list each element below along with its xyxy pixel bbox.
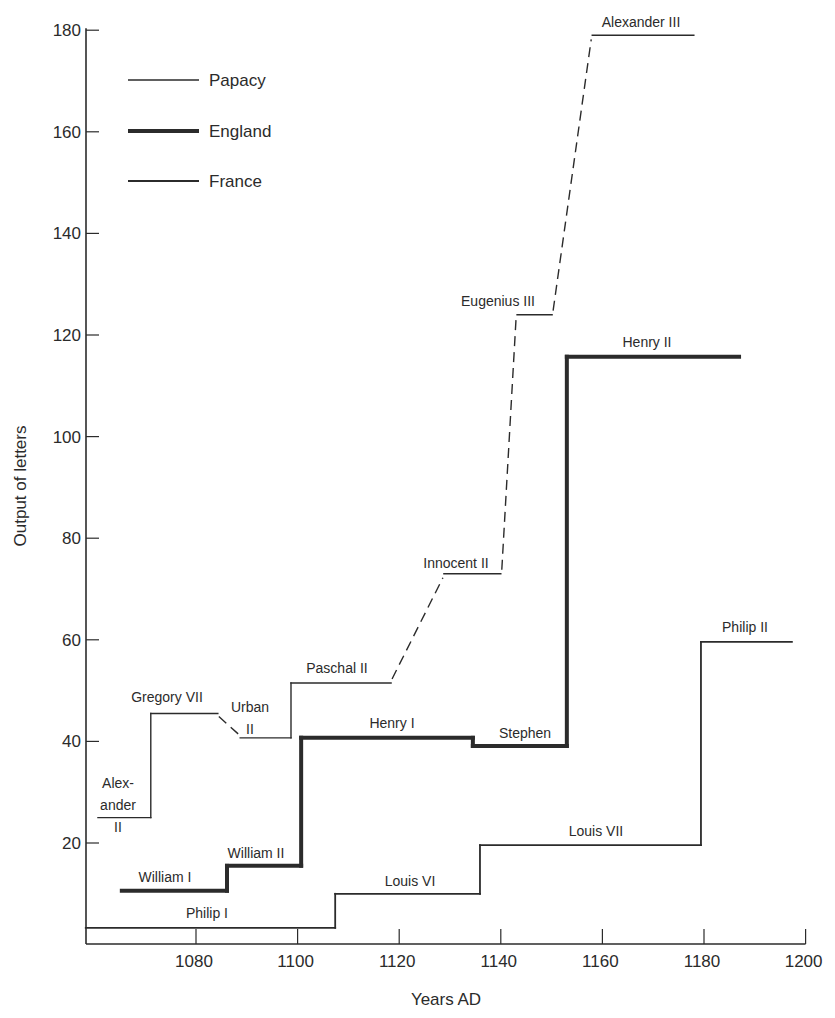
x-axis-title: Years AD [411, 990, 481, 1009]
reign-label: William I [139, 869, 192, 885]
reign-label: Louis VI [385, 873, 436, 889]
legend-label: France [209, 172, 262, 191]
reign-label: Innocent II [423, 555, 488, 571]
reign-label: Stephen [499, 725, 551, 741]
x-tick-label: 1100 [277, 952, 314, 971]
reign-label: Paschal II [306, 660, 367, 676]
reign-label: II [114, 819, 122, 835]
axes [86, 28, 806, 944]
series-france [86, 642, 792, 928]
reign-label: Philip II [722, 619, 768, 635]
step-chart: 2040608010012014016018010801100112011401… [0, 0, 835, 1018]
reign-label: Alexander III [602, 14, 681, 30]
x-tick-label: 1180 [684, 952, 721, 971]
reign-label: ander [100, 797, 136, 813]
reign-label: Henry I [369, 715, 414, 731]
series-lines [86, 35, 792, 928]
y-tick-label: 160 [53, 123, 81, 142]
y-tick-label: 120 [53, 326, 81, 345]
x-tick-label: 1080 [175, 952, 213, 971]
y-tick-label: 60 [62, 631, 81, 650]
reign-label: William II [228, 845, 285, 861]
y-tick-label: 140 [53, 224, 81, 243]
y-axis-title: Output of letters [11, 426, 30, 547]
legend: PapacyEnglandFrance [128, 71, 271, 191]
reign-label: Alex- [102, 775, 134, 791]
x-tick-label: 1120 [379, 952, 416, 971]
dashed-transition [392, 578, 443, 679]
x-tick-label: 1160 [582, 952, 619, 971]
axis-ticks: 2040608010012014016018010801100112011401… [53, 21, 823, 971]
y-tick-label: 40 [62, 732, 81, 751]
legend-label: England [209, 122, 271, 141]
x-tick-label: 1200 [785, 952, 823, 971]
dashed-transition [219, 716, 239, 734]
y-tick-label: 180 [53, 21, 81, 40]
x-tick-label: 1140 [481, 952, 518, 971]
y-tick-label: 80 [62, 529, 81, 548]
y-tick-label: 20 [62, 834, 81, 853]
reign-label: II [246, 721, 254, 737]
reign-label: Henry II [622, 334, 671, 350]
reign-label: Louis VII [569, 823, 623, 839]
dashed-transition [553, 39, 591, 310]
dashed-transition [502, 319, 516, 570]
series-england [122, 357, 739, 891]
reign-label: Philip I [186, 905, 228, 921]
legend-label: Papacy [209, 71, 266, 90]
series-labels: Alex-anderIIGregory VIIUrbanIIPaschal II… [100, 14, 768, 921]
reign-label: Gregory VII [131, 689, 203, 705]
y-tick-label: 100 [53, 428, 81, 447]
reign-label: Urban [231, 699, 269, 715]
reign-label: Eugenius III [461, 293, 535, 309]
